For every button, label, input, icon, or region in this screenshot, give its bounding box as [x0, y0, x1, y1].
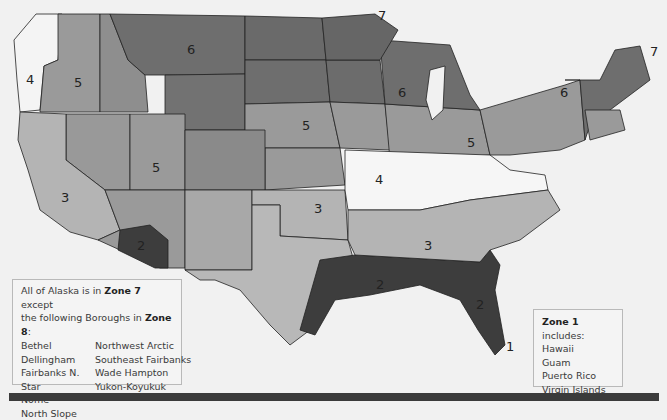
region-colorado	[185, 130, 265, 190]
svg-text:1: 1	[506, 339, 514, 354]
svg-text:6: 6	[560, 85, 568, 100]
region-south-dakota	[245, 60, 330, 104]
svg-text:4: 4	[375, 172, 383, 187]
region-iowa	[326, 60, 385, 104]
region-new-mexico	[185, 190, 252, 270]
svg-text:3: 3	[314, 201, 322, 216]
region-southern-new-england	[585, 110, 625, 140]
borough-list-col1: Bethel Dellingham Fairbanks N. Star Nome…	[21, 339, 95, 420]
region-missouri	[330, 102, 390, 150]
svg-text:7: 7	[378, 8, 386, 23]
svg-text:2: 2	[376, 277, 384, 292]
region-kansas	[265, 148, 345, 190]
region-gulf-zone2	[300, 250, 505, 355]
borough-list-col2: Northwest Arctic Southeast Fairbanks Wad…	[95, 339, 191, 420]
svg-text:3: 3	[424, 238, 432, 253]
region-north-dakota	[245, 16, 326, 60]
zone1-note: Zone 1 includes: Hawaii Guam Puerto Rico…	[533, 309, 623, 387]
svg-text:2: 2	[476, 297, 484, 312]
svg-text:5: 5	[152, 160, 160, 175]
region-utah	[130, 114, 185, 190]
alaska-note-line1: All of Alaska is in Zone 7 except	[21, 284, 173, 311]
borough-item: Southeast Fairbanks	[95, 353, 191, 367]
svg-text:7: 7	[650, 44, 658, 59]
borough-item: Bethel	[21, 339, 95, 353]
svg-text:6: 6	[187, 42, 195, 57]
borough-item: Northwest Arctic	[95, 339, 191, 353]
svg-text:5: 5	[302, 118, 310, 133]
borough-item: Dellingham	[21, 353, 95, 367]
svg-text:5: 5	[467, 135, 475, 150]
zone1-item: Puerto Rico	[542, 369, 614, 383]
svg-text:5: 5	[74, 75, 82, 90]
zone1-item: Guam	[542, 356, 614, 370]
zone1-item: Hawaii	[542, 342, 614, 356]
borough-item: Fairbanks N. Star	[21, 366, 95, 393]
region-pennsylvania-ny	[480, 80, 585, 155]
svg-text:2: 2	[137, 238, 145, 253]
borough-item: Yukon-Koyukuk	[95, 380, 191, 394]
borough-item: North Slope	[21, 407, 95, 420]
zone1-note-title: Zone 1 includes:	[542, 315, 614, 342]
alaska-note-line2: the following Boroughs in Zone 8:	[21, 311, 173, 338]
footer-bar	[9, 393, 659, 401]
svg-text:3: 3	[61, 190, 69, 205]
svg-text:6: 6	[398, 85, 406, 100]
alaska-zone-note: All of Alaska is in Zone 7 except the fo…	[12, 279, 182, 385]
borough-item: Wade Hampton	[95, 366, 191, 380]
svg-text:4: 4	[26, 72, 34, 87]
